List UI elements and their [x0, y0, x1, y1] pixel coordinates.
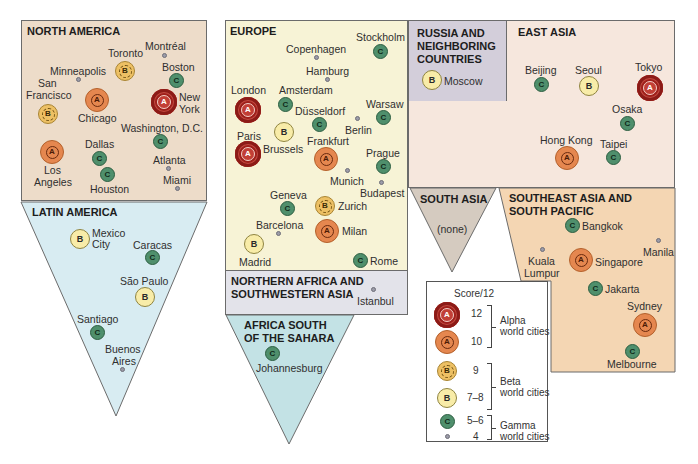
legend-score: 7–8 — [467, 392, 484, 404]
minor-city-dot — [656, 238, 661, 243]
city-label: Melbourne — [607, 358, 657, 370]
legend-score: 5–6 — [467, 415, 484, 427]
alpha10-symbol: A — [633, 313, 657, 337]
region-title: SOUTHEAST ASIA AND — [509, 192, 632, 205]
legend-group-label: world cities — [500, 431, 549, 443]
city-label: Singapore — [595, 256, 643, 268]
legend-score: 10 — [471, 336, 482, 348]
legend-heading: Score/12 — [454, 288, 494, 300]
alpha10-symbol: A — [435, 330, 459, 354]
gamma-symbol: C — [625, 344, 640, 359]
minor-city-dot — [540, 247, 545, 252]
legend: Score/12 A 12 A 10 B 9 B 7–8 C 5–6 4 Alp… — [426, 281, 548, 442]
legend-score: 4 — [473, 431, 479, 443]
alpha10-symbol: A — [569, 248, 593, 272]
city-label: Manila — [643, 246, 674, 258]
region-title: SOUTH PACIFIC — [509, 205, 594, 218]
minor-city-dot — [445, 434, 450, 439]
legend-score: 9 — [473, 365, 479, 377]
alpha12-symbol: A — [434, 302, 460, 328]
legend-bracket — [487, 363, 492, 410]
city-label: Kuala — [528, 255, 555, 267]
city-label: Sydney — [627, 300, 662, 312]
legend-group-label: world cities — [500, 326, 549, 338]
legend-bracket — [487, 305, 492, 348]
city-label: Lumpur — [524, 267, 560, 279]
legend-score: 12 — [471, 308, 482, 320]
gamma-symbol: C — [588, 281, 603, 296]
city-label: Bangkok — [582, 220, 623, 232]
beta78-symbol: B — [437, 388, 457, 408]
gamma-symbol: C — [565, 218, 580, 233]
region-southeast-asia-south-pacific — [0, 0, 698, 464]
gamma-symbol: C — [440, 414, 455, 429]
city-label: Jakarta — [605, 283, 639, 295]
legend-group-label: world cities — [500, 387, 549, 399]
legend-bracket — [487, 415, 492, 440]
beta9-symbol: B — [437, 361, 457, 381]
